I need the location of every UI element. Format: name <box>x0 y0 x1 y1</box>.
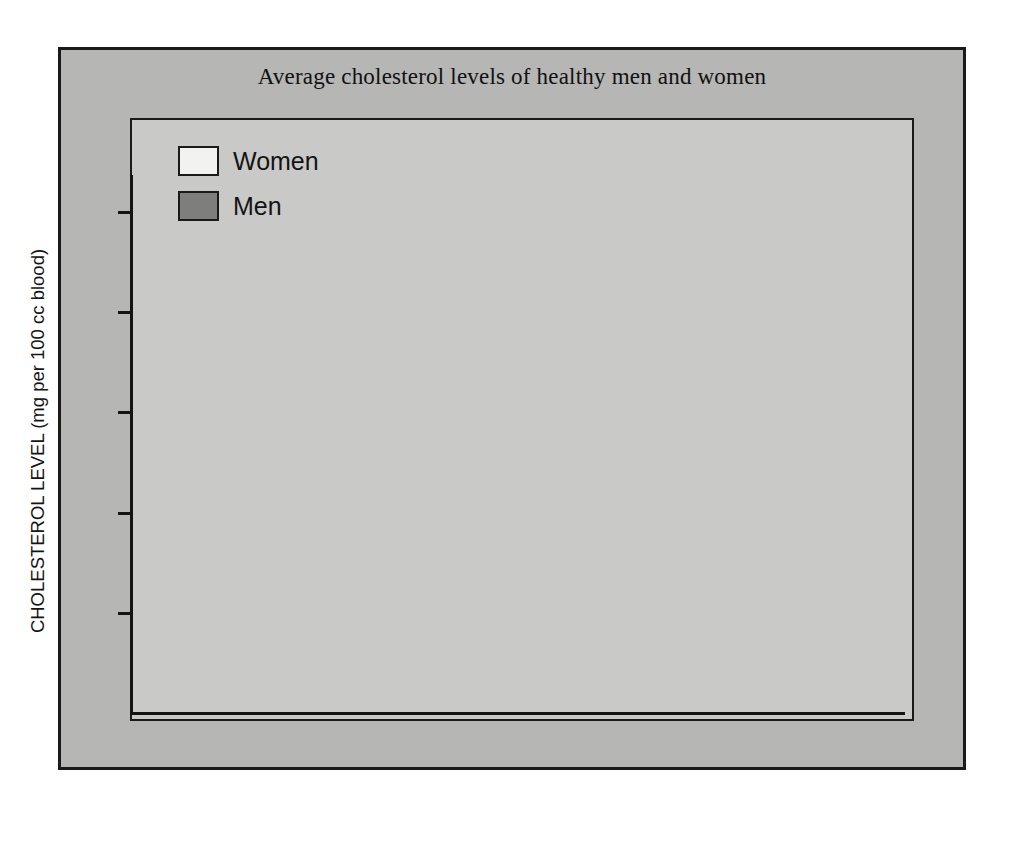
bars-layer <box>0 0 1022 848</box>
x-axis-labels <box>0 722 1022 762</box>
